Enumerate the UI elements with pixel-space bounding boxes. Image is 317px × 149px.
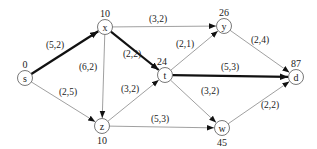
node-x: x10 — [98, 8, 113, 35]
node-label-s: s — [23, 73, 27, 84]
node-s: s0 — [18, 59, 33, 86]
node-value-s: 0 — [23, 59, 28, 70]
node-y: y26 — [217, 7, 232, 34]
edge-label-s-x: (5,2) — [46, 40, 64, 51]
node-label-d: d — [294, 72, 299, 83]
node-value-w: 45 — [217, 137, 227, 148]
node-label-t: t — [164, 70, 167, 81]
node-value-y: 26 — [219, 7, 229, 18]
node-d: d87 — [289, 58, 304, 85]
node-label-z: z — [100, 121, 105, 132]
edge-label-w-d: (2,2) — [261, 100, 279, 111]
network-flow-graph: (5,2)(2,5)(3,2)(2,2)(6,2)(3,2)(5,3)(2,1)… — [0, 0, 317, 149]
node-value-d: 87 — [291, 58, 301, 69]
edge-x-z — [102, 34, 105, 118]
edge-label-y-d: (2,4) — [251, 35, 269, 46]
node-label-x: x — [103, 22, 108, 33]
edge-label-x-y: (3,2) — [149, 14, 167, 25]
node-w: w45 — [215, 121, 230, 148]
edge-z-w — [109, 126, 214, 128]
edge-label-t-d: (5,3) — [221, 62, 239, 73]
edge-label-z-t: (3,2) — [121, 84, 139, 95]
node-value-x: 10 — [100, 8, 110, 19]
node-z: z10 — [95, 119, 110, 146]
node-value-z: 10 — [97, 135, 107, 146]
edge-label-s-z: (2,5) — [59, 87, 77, 98]
edge-x-y — [112, 26, 216, 27]
node-t: t24 — [157, 56, 173, 83]
node-label-y: y — [222, 21, 227, 32]
edge-w-d — [228, 82, 289, 124]
edge-label-t-w: (3,2) — [201, 86, 219, 97]
edge-label-x-t: (2,2) — [123, 49, 141, 60]
node-value-t: 24 — [157, 56, 167, 67]
node-label-w: w — [218, 123, 226, 134]
edge-label-x-z: (6,2) — [79, 62, 97, 73]
edge-t-d — [172, 75, 288, 77]
edge-t-y — [171, 31, 218, 70]
edge-label-z-w: (5,3) — [151, 114, 169, 125]
edge-label-t-y: (2,1) — [176, 39, 194, 50]
